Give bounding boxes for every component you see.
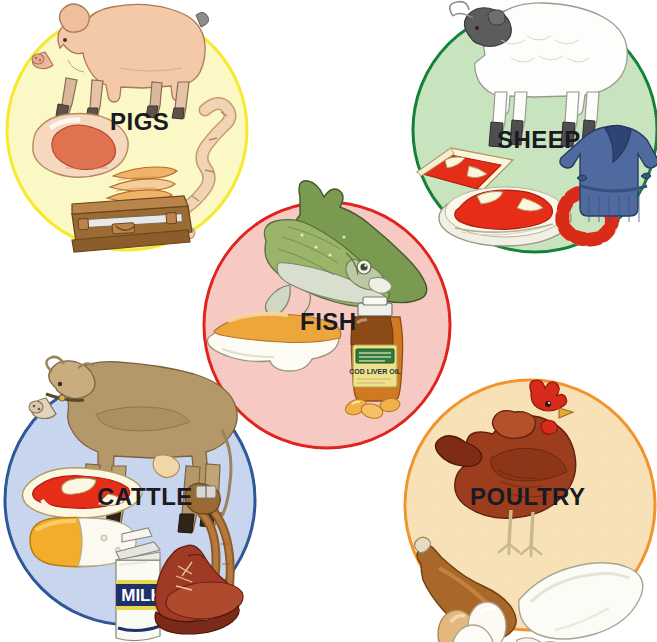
label-fish: FISH <box>300 308 357 336</box>
bottle-label-text: COD LIVER OIL <box>349 368 401 375</box>
label-pigs: PIGS <box>110 108 169 136</box>
label-cattle: CATTLE <box>97 483 193 511</box>
diagram-canvas: PIGS <box>0 0 657 642</box>
fish-illustration <box>264 181 426 316</box>
chicken-illustration <box>435 380 575 556</box>
label-sheep: SHEEP <box>497 126 581 154</box>
label-poultry: POULTRY <box>470 483 586 511</box>
lamb-steak-plate-illustration <box>439 187 571 246</box>
leather-briefcase-illustration <box>72 196 192 252</box>
pig-illustration <box>32 4 209 120</box>
cod-liver-oil-bottle-illustration: COD LIVER OIL <box>349 297 403 401</box>
feather-pillow-illustration <box>517 563 643 642</box>
